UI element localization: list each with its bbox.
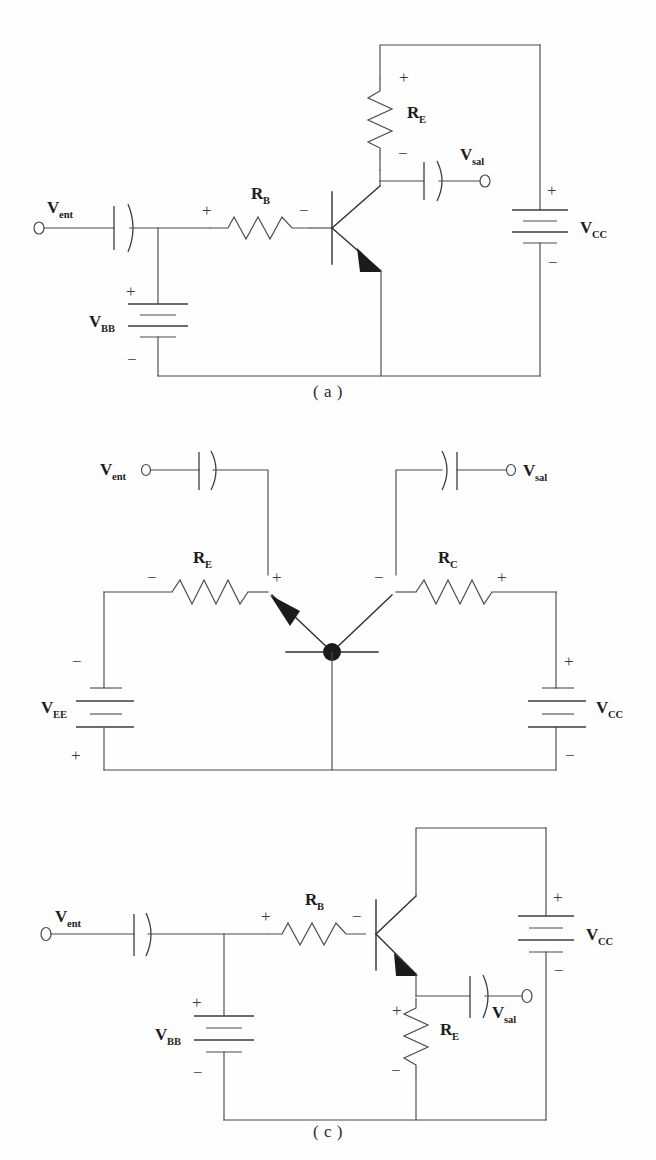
figure-sheet: V BB + − V ent R B + − bbox=[0, 0, 656, 1160]
transistor-collector-lead-b bbox=[332, 595, 392, 652]
vcc-sub-c: CC bbox=[598, 936, 613, 947]
rb-plus-c: + bbox=[261, 907, 271, 926]
re-sub-b: E bbox=[205, 559, 212, 570]
rb-minus-a: − bbox=[299, 201, 309, 220]
re-plus-a: + bbox=[399, 68, 409, 87]
vcc-minus-b: − bbox=[565, 746, 575, 765]
rb-plus-a: + bbox=[202, 201, 212, 220]
vbb-minus-a: − bbox=[127, 350, 137, 369]
circuit-svg-a: V BB + − V ent R B + − bbox=[0, 0, 656, 420]
output-terminal-c[interactable] bbox=[522, 990, 532, 1003]
circuit-figure-b: V ent V sal R E − + bbox=[0, 420, 656, 820]
caption-a: ( a ) bbox=[0, 382, 656, 402]
re-sub-c: E bbox=[452, 1031, 459, 1042]
re-minus-a: − bbox=[398, 144, 408, 163]
transistor-emitter-arrow-b bbox=[270, 595, 300, 626]
re-resistor-b bbox=[172, 580, 248, 604]
vcc-plus-b: + bbox=[564, 652, 574, 671]
vee-minus-b: − bbox=[72, 652, 82, 671]
re-resistor-c bbox=[404, 998, 428, 1076]
input-terminal-c[interactable] bbox=[41, 928, 51, 941]
vbb-plus-a: + bbox=[126, 282, 136, 301]
rb-resistor-c bbox=[268, 923, 366, 945]
output-terminal-b[interactable] bbox=[507, 465, 516, 476]
vbb-sub-a: BB bbox=[101, 323, 115, 334]
transistor-collector-lead-c bbox=[376, 896, 416, 934]
caption-c: ( c ) bbox=[0, 1122, 656, 1142]
vcc-plus-a: + bbox=[547, 181, 557, 200]
vent-sub-c: ent bbox=[67, 918, 82, 929]
output-terminal-a[interactable] bbox=[480, 175, 490, 187]
vsal-sub-b: sal bbox=[535, 472, 547, 483]
re-minus-c: − bbox=[391, 1061, 401, 1080]
vee-sub-b: EE bbox=[53, 709, 67, 720]
rc-resistor-b bbox=[416, 580, 492, 604]
collector-top-wire-c bbox=[416, 828, 546, 896]
vsal-sub-a: sal bbox=[472, 156, 484, 167]
re-plus-c: + bbox=[392, 1001, 402, 1020]
vent-sub-a: ent bbox=[59, 209, 74, 220]
re-plus-b: + bbox=[272, 568, 282, 587]
rc-sub-b: C bbox=[450, 559, 458, 570]
vent-sub-b: ent bbox=[112, 471, 127, 482]
circuit-svg-b: V ent V sal R E − + bbox=[0, 420, 656, 820]
vbb-sub-c: BB bbox=[167, 1036, 181, 1047]
transistor-collector-lead-a bbox=[332, 186, 380, 228]
vcc-sub-b: CC bbox=[608, 709, 623, 720]
vcc-minus-a: − bbox=[548, 253, 558, 272]
output-up-wire-b bbox=[396, 470, 442, 575]
vsal-sub-c: sal bbox=[504, 1014, 516, 1025]
rb-sub-c: B bbox=[317, 901, 324, 912]
vee-plus-b: + bbox=[71, 746, 81, 765]
rb-resistor-a bbox=[210, 217, 310, 239]
re-resistor-a bbox=[368, 78, 392, 158]
vbb-minus-c: − bbox=[193, 1063, 203, 1082]
circuit-figure-a: V BB + − V ent R B + − bbox=[0, 0, 656, 420]
vcc-plus-c: + bbox=[553, 888, 563, 907]
circuit-svg-c: V ent V BB + − R B + − bbox=[0, 820, 656, 1160]
vcc-minus-c: − bbox=[554, 961, 564, 980]
re-minus-b: − bbox=[147, 568, 157, 587]
vcc-sub-a: CC bbox=[592, 229, 607, 240]
rc-minus-b: − bbox=[374, 568, 384, 587]
rb-minus-c: − bbox=[352, 907, 362, 926]
re-sub-a: E bbox=[419, 114, 426, 125]
rc-plus-b: + bbox=[497, 568, 507, 587]
rb-sub-a: B bbox=[263, 195, 270, 206]
input-down-wire-b bbox=[213, 470, 268, 575]
output-capacitor-curve-b bbox=[442, 451, 447, 490]
input-terminal-a[interactable] bbox=[34, 222, 44, 234]
circuit-figure-c: V ent V BB + − R B + − bbox=[0, 820, 656, 1160]
input-terminal-b[interactable] bbox=[142, 465, 151, 476]
vbb-plus-c: + bbox=[192, 993, 202, 1012]
